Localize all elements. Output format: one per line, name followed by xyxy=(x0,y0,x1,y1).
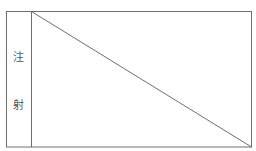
label-char-zhu: 注 xyxy=(13,50,24,64)
table-diagram: 注 射 xyxy=(0,0,256,151)
label-char-she: 射 xyxy=(13,98,24,112)
outer-frame xyxy=(7,12,252,148)
